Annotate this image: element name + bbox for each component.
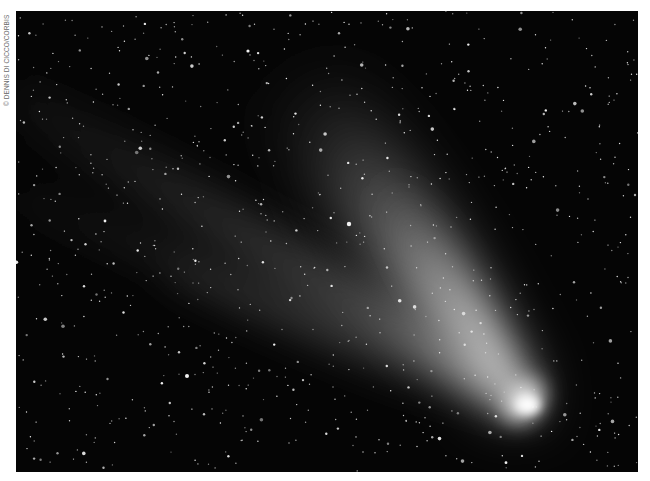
comet-nucleus	[516, 396, 540, 414]
comet-image	[16, 11, 638, 472]
photo-credit: © DENNIS DI CICCO/CORBIS	[2, 6, 12, 106]
comet-photo	[16, 11, 638, 472]
